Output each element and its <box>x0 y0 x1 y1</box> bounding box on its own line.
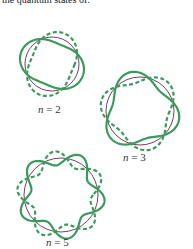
orbit-circle <box>25 37 79 91</box>
label-eq: = 2 <box>44 103 61 115</box>
label-n5: n = 5 <box>46 236 69 248</box>
label-eq: = 5 <box>52 236 69 248</box>
standing-wave-figure <box>0 0 193 249</box>
label-eq: = 3 <box>129 151 146 163</box>
label-n2: n = 2 <box>38 103 61 115</box>
label-n3: n = 3 <box>123 151 146 163</box>
